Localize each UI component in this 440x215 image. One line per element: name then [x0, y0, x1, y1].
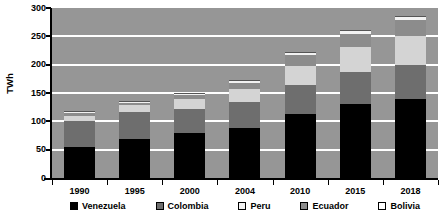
legend-entry-ecuador[interactable]: Ecuador	[300, 201, 348, 211]
bar-segment-ecuador[interactable]	[395, 20, 426, 36]
bar-group[interactable]	[273, 8, 328, 178]
x-axis-tick-label: 2004	[217, 185, 272, 197]
chart-legend: VenezuelaColombiaPeruEcuadorBolivia	[52, 199, 438, 213]
bar-segment-peru[interactable]	[285, 66, 316, 85]
bar-segment-venezuela[interactable]	[64, 147, 95, 178]
legend-swatch-icon	[238, 202, 246, 210]
y-axis-tick-label: 200	[22, 60, 46, 69]
y-axis-tick-mark	[46, 7, 51, 9]
x-axis-tick-label: 1995	[107, 185, 162, 197]
bar-group[interactable]	[162, 8, 217, 178]
bar-stack[interactable]	[174, 93, 205, 178]
legend-label: Peru	[250, 201, 270, 211]
x-axis-tick-labels: 1990199520002004201020152018	[52, 185, 438, 197]
legend-entry-venezuela[interactable]: Venezuela	[70, 201, 126, 211]
bar-segment-ecuador[interactable]	[285, 55, 316, 66]
bar-segment-peru[interactable]	[174, 99, 205, 109]
y-axis-zero-label: 0	[22, 173, 46, 183]
bar-segment-venezuela[interactable]	[395, 99, 426, 178]
bar-segment-venezuela[interactable]	[119, 139, 150, 178]
stacked-bar-chart: TWh 30025020015010050 0 1990199520002004…	[0, 0, 440, 215]
x-axis-tick-label: 2018	[383, 185, 438, 197]
plot-area	[52, 8, 438, 178]
y-axis-title: TWh	[4, 62, 15, 106]
legend-entry-bolivia[interactable]: Bolivia	[378, 201, 420, 211]
y-axis-tick-label: 100	[22, 117, 46, 126]
bar-stack[interactable]	[285, 52, 316, 178]
x-axis-tick-label: 2010	[273, 185, 328, 197]
bar-segment-venezuela[interactable]	[340, 104, 371, 178]
legend-entry-peru[interactable]: Peru	[238, 201, 270, 211]
bar-group[interactable]	[328, 8, 383, 178]
bar-segment-venezuela[interactable]	[174, 133, 205, 178]
bar-stack[interactable]	[64, 111, 95, 178]
bar-group[interactable]	[52, 8, 107, 178]
y-axis-tick-label: 250	[22, 32, 46, 41]
bar-segment-peru[interactable]	[340, 47, 371, 72]
bar-segment-colombia[interactable]	[285, 85, 316, 114]
y-axis-tick-label: 300	[22, 4, 46, 13]
y-axis-tick-label: 50	[22, 145, 46, 154]
bar-segment-colombia[interactable]	[395, 65, 426, 99]
bar-segment-ecuador[interactable]	[340, 34, 371, 48]
legend-label: Venezuela	[82, 201, 126, 211]
bar-group[interactable]	[383, 8, 438, 178]
legend-label: Ecuador	[312, 201, 348, 211]
x-axis-tick-label: 1990	[52, 185, 107, 197]
bar-segment-colombia[interactable]	[229, 102, 260, 129]
bar-stack[interactable]	[340, 30, 371, 178]
bar-segment-venezuela[interactable]	[285, 114, 316, 178]
y-axis-tick-labels: 30025020015010050	[22, 0, 46, 186]
bar-stack[interactable]	[119, 101, 150, 178]
x-axis-tick-label: 2015	[328, 185, 383, 197]
bar-segment-colombia[interactable]	[174, 109, 205, 133]
bar-stack[interactable]	[229, 80, 260, 178]
bar-group[interactable]	[107, 8, 162, 178]
bar-segment-colombia[interactable]	[64, 121, 95, 147]
y-axis-tick-mark	[46, 35, 51, 37]
y-axis-tick-mark	[46, 120, 51, 122]
legend-swatch-icon	[156, 202, 164, 210]
y-axis-tick-mark	[46, 149, 51, 151]
bar-segment-colombia[interactable]	[340, 72, 371, 104]
bars-layer	[52, 8, 438, 178]
bar-segment-peru[interactable]	[119, 105, 150, 112]
y-axis-tick-mark	[46, 92, 51, 94]
bar-segment-colombia[interactable]	[119, 112, 150, 139]
y-axis-tick-mark	[46, 64, 51, 66]
legend-label: Colombia	[168, 201, 209, 211]
bar-segment-peru[interactable]	[395, 36, 426, 64]
bar-group[interactable]	[217, 8, 272, 178]
legend-entry-colombia[interactable]: Colombia	[156, 201, 209, 211]
legend-swatch-icon	[378, 202, 386, 210]
legend-label: Bolivia	[390, 201, 420, 211]
bar-stack[interactable]	[395, 16, 426, 178]
x-axis-tick-mark	[438, 180, 439, 185]
x-axis-tick-label: 2000	[162, 185, 217, 197]
y-axis-tick-label: 150	[22, 89, 46, 98]
legend-swatch-icon	[70, 202, 78, 210]
legend-swatch-icon	[300, 202, 308, 210]
bar-segment-peru[interactable]	[229, 89, 260, 101]
bar-segment-venezuela[interactable]	[229, 128, 260, 178]
